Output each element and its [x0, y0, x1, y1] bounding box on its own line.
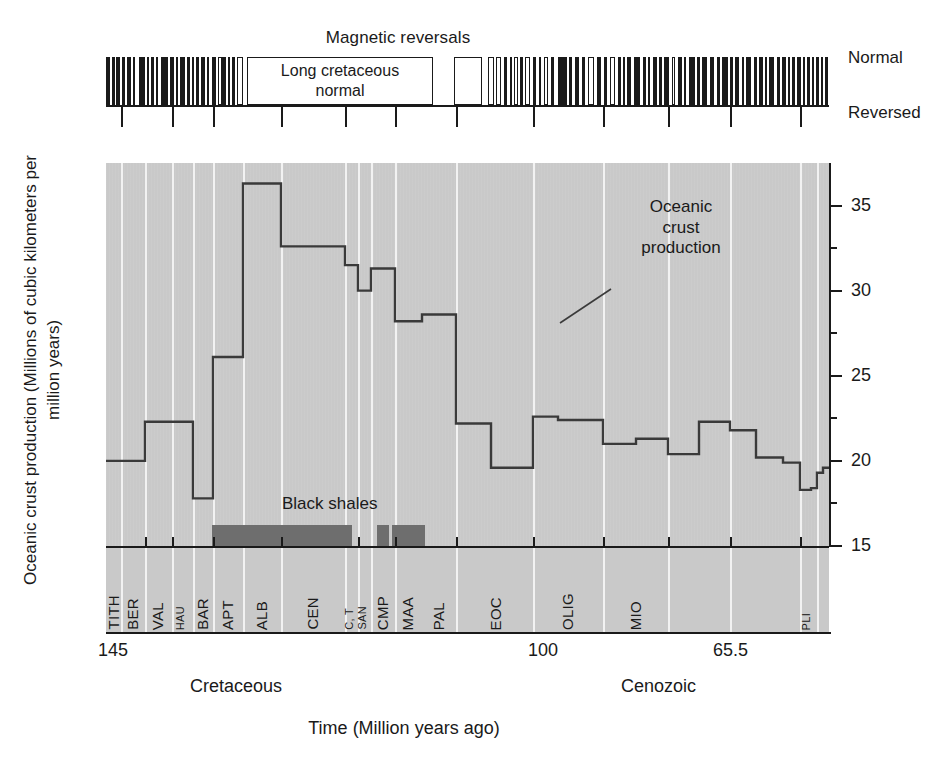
x-axis-tick-label: 65.5 — [713, 640, 748, 661]
y-axis-minor-tick — [829, 417, 837, 419]
stage-separator — [213, 548, 215, 634]
magnetic-reversal-barcode: Long cretaceousnormal — [106, 57, 829, 107]
y-axis-major-tick — [829, 545, 842, 547]
magnetic-normal-interval — [533, 57, 536, 105]
long-cretaceous-normal-block: Long cretaceousnormal — [247, 57, 433, 105]
annotation-leader-line — [560, 289, 611, 323]
magnetic-reversed-interval — [514, 57, 518, 105]
magnetic-normal-interval — [504, 57, 507, 105]
magnetic-reversed-interval — [610, 57, 615, 105]
magnetic-axis-tick — [800, 107, 802, 127]
magnetic-normal-interval — [735, 57, 739, 105]
magnetic-axis-tick — [456, 107, 458, 127]
magnetic-reversed-interval — [496, 57, 501, 105]
magnetic-normal-interval — [520, 57, 523, 105]
figure-root: Magnetic reversals Long cretaceousnormal… — [0, 0, 952, 772]
era-label-cenozoic: Cenozoic — [621, 676, 696, 697]
polarity-reversed-label: Reversed — [848, 103, 921, 123]
magnetic-reversed-interval — [237, 57, 243, 105]
stage-tick — [668, 537, 670, 548]
magnetic-normal-interval — [139, 57, 145, 105]
magnetic-normal-interval — [180, 57, 185, 105]
y-axis-major-tick — [829, 290, 842, 292]
magnetic-normal-interval — [788, 57, 790, 105]
long-cretaceous-normal-label-line2: normal — [316, 81, 365, 101]
magnetic-normal-interval — [648, 57, 650, 105]
magnetic-normal-interval — [156, 57, 158, 105]
stage-label-val: VAL — [150, 602, 165, 630]
stage-label-tith: TITH — [106, 595, 121, 630]
magnetic-normal-interval — [618, 57, 621, 105]
magnetic-axis-tick — [395, 107, 397, 127]
magnetic-normal-interval — [742, 57, 744, 105]
oceanic-crust-production-chart: Black shales Oceanic crust production TI… — [106, 163, 829, 634]
stage-separator — [603, 548, 605, 634]
y-axis-minor-tick — [829, 332, 837, 334]
y-axis-title: Oceanic crust production (Millions of cu… — [20, 155, 66, 585]
magnetic-normal-interval — [161, 57, 168, 105]
stage-label-pli: PLI — [801, 613, 812, 630]
stage-label-mio: MIO — [628, 601, 643, 630]
magnetic-normal-interval — [147, 57, 149, 105]
magnetic-reversed-interval — [588, 57, 594, 105]
magnetic-normal-interval — [717, 57, 720, 105]
stage-label-bar: BAR — [195, 598, 210, 630]
stage-tick — [456, 537, 458, 548]
y-axis-tick-label: 15 — [851, 535, 871, 556]
magnetic-reversed-interval — [525, 57, 530, 105]
magnetic-normal-interval — [133, 57, 135, 105]
magnetic-axis-tick — [121, 107, 123, 127]
magnetic-normal-interval — [702, 57, 707, 105]
stage-tick — [800, 537, 802, 548]
magnetic-normal-interval — [803, 57, 805, 105]
magnetic-axis-tick — [281, 107, 283, 127]
stage-label-hau: HAU — [175, 606, 186, 630]
curve-annotation-line1: Oceanic — [616, 197, 746, 218]
magnetic-normal-interval — [623, 57, 625, 105]
magnetic-normal-interval — [754, 57, 757, 105]
magnetic-axis-tick — [172, 107, 174, 127]
magnetic-normal-interval — [207, 57, 209, 105]
magnetic-normal-interval — [192, 57, 194, 105]
y-axis-tick-label: 20 — [851, 450, 871, 471]
magnetic-normal-interval — [730, 57, 733, 105]
magnetic-normal-interval — [664, 57, 669, 105]
magnetic-normal-interval — [597, 57, 601, 105]
y-axis-tick-label: 35 — [851, 195, 871, 216]
magnetic-normal-interval — [106, 57, 110, 105]
stage-separator — [243, 548, 245, 634]
magnetic-normal-interval — [746, 57, 751, 105]
magnetic-normal-interval — [212, 57, 216, 105]
y-axis-minor-tick — [829, 502, 837, 504]
magnetic-axis-tick — [730, 107, 732, 127]
stage-label-maa: MAA — [400, 597, 415, 630]
stage-tick — [603, 537, 605, 548]
y-axis-major-tick — [829, 460, 842, 462]
magnetic-axis-tick — [533, 107, 535, 127]
magnetic-normal-interval — [232, 57, 235, 105]
magnetic-normal-interval — [539, 57, 541, 105]
stage-separator — [371, 548, 373, 634]
era-label-cretaceous: Cretaceous — [190, 676, 282, 697]
magnetic-axis-tick — [345, 107, 347, 127]
stage-label-pal: PAL — [431, 602, 446, 630]
magnetic-normal-interval — [782, 57, 786, 105]
magnetic-reversed-interval — [544, 57, 548, 105]
y-axis-major-tick — [829, 375, 842, 377]
magnetic-reversed-interval — [218, 57, 222, 105]
stage-label-ber: BER — [125, 598, 140, 630]
magnetic-reversals-title: Magnetic reversals — [0, 28, 874, 48]
magnetic-normal-interval — [575, 57, 579, 105]
curve-annotation-line2: crust — [616, 218, 746, 239]
stage-separator — [533, 548, 535, 634]
magnetic-normal-interval — [170, 57, 174, 105]
magnetic-normal-interval — [510, 57, 512, 105]
stage-label-eoc: EOC — [488, 597, 503, 630]
stage-label-olig: OLIG — [560, 593, 575, 630]
magnetic-normal-interval — [689, 57, 695, 105]
stage-label-ct: C, T — [344, 608, 355, 630]
magnetic-normal-interval — [151, 57, 154, 105]
magnetic-reversed-interval — [454, 57, 482, 105]
magnetic-normal-interval — [792, 57, 795, 105]
stage-label-strip: TITHBERVALHAUBARAPTALBCENC, TSANCMPMAAPA… — [106, 546, 829, 634]
